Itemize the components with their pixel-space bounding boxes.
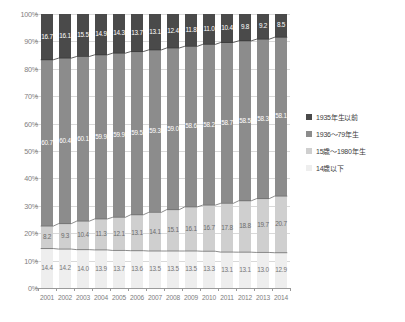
y-axis-tick-label: 70%: [4, 92, 38, 101]
x-axis-tick-label: 2009: [184, 294, 198, 301]
bar-segment-value-label: 58.6: [185, 123, 196, 129]
x-axis-tick-mark: [38, 288, 39, 291]
legend-swatch-icon: [306, 131, 312, 137]
bar-segment-value-label: 59.0: [167, 126, 178, 132]
bar-column: 13.516.158.611.8: [185, 14, 198, 288]
bar-segment: 59.9: [95, 55, 108, 219]
bar-segment-value-label: 59.9: [95, 134, 106, 140]
bar-segment: 13.5: [167, 251, 180, 288]
bar-segment-value-label: 13.5: [167, 266, 178, 272]
bar-segment: 10.4: [77, 221, 90, 249]
bar-column: 12.920.758.18.5: [275, 14, 288, 288]
bar-segment-value-label: 13.1: [239, 267, 250, 273]
bar-segment-value-label: 60.1: [77, 136, 88, 142]
bar-column: 13.118.858.59.8: [239, 14, 252, 288]
x-axis-tick-mark: [146, 288, 147, 291]
bar-segment-value-label: 58.2: [203, 122, 214, 128]
bar-segment: 13.1: [239, 252, 252, 288]
legend-item-label: 1935年生以前: [316, 112, 358, 122]
legend-item[interactable]: 15歳～1980年生: [306, 142, 405, 159]
bar-segment: 16.1: [59, 14, 72, 58]
legend-item-label: 14歳以下: [316, 163, 344, 173]
bar-segment-value-label: 9.3: [61, 233, 69, 239]
bar-segment: 14.9: [95, 14, 108, 55]
x-axis-tick-mark: [236, 288, 237, 291]
bar-segment: 14.0: [77, 250, 90, 288]
bar-column: 13.911.359.914.9: [95, 14, 108, 288]
bar-segment-value-label: 8.2: [43, 234, 51, 240]
bar-segment: 12.1: [113, 217, 126, 250]
bar-column: 14.010.460.115.5: [77, 14, 90, 288]
bar-segment-value-label: 14.0: [77, 266, 88, 272]
bar-segment: 58.3: [257, 39, 270, 198]
bar-column: 13.117.858.710.4: [221, 14, 234, 288]
y-axis: 0%10%20%30%40%50%60%70%80%90%100%: [0, 14, 38, 288]
bar-segment-value-label: 13.3: [203, 266, 214, 272]
bar-segment-value-label: 59.5: [131, 130, 142, 136]
legend-swatch-icon: [306, 148, 312, 154]
legend-item[interactable]: 14歳以下: [306, 159, 405, 176]
bar-segment-value-label: 10.4: [221, 25, 232, 31]
bar-segment: 14.3: [113, 14, 126, 53]
legend: 1935年生以前1936～79年生15歳～1980年生14歳以下: [306, 108, 405, 176]
y-axis-tick-label: 80%: [4, 64, 38, 73]
y-axis-tick-label: 10%: [4, 256, 38, 265]
bar-segment: 13.5: [185, 251, 198, 288]
bar-segment-value-label: 15.1: [167, 227, 178, 233]
x-axis-tick-mark: [182, 288, 183, 291]
legend-swatch-icon: [306, 165, 312, 171]
bar-segment-value-label: 60.7: [41, 140, 52, 146]
bar-segment-value-label: 59.3: [149, 128, 160, 134]
bar-segment: 59.0: [167, 48, 180, 210]
bar-segment: 17.8: [221, 203, 234, 252]
bar-segment: 58.2: [203, 44, 216, 205]
bar-segment: 10.4: [221, 14, 234, 42]
legend-swatch-icon: [306, 114, 312, 120]
bar-segment: 16.7: [203, 205, 216, 251]
bar-segment-value-label: 13.9: [95, 266, 106, 272]
x-axis-tick-label: 2007: [148, 294, 162, 301]
bar-column: 14.48.260.716.7: [41, 14, 54, 288]
x-axis-tick-mark: [290, 288, 291, 291]
x-axis-tick-label: 2002: [58, 294, 72, 301]
bar-segment-value-label: 14.1: [149, 229, 160, 235]
bar-segment-value-label: 60.4: [59, 138, 70, 144]
legend-item[interactable]: 1935年生以前: [306, 108, 405, 125]
bar-segment: 16.1: [185, 207, 198, 251]
y-axis-tick-label: 30%: [4, 201, 38, 210]
bar-segment: 58.1: [275, 37, 288, 196]
y-axis-tick-label: 20%: [4, 229, 38, 238]
bar-segment-value-label: 19.7: [257, 222, 268, 228]
x-axis-tick-label: 2006: [130, 294, 144, 301]
bar-segment-value-label: 15.5: [77, 32, 88, 38]
x-axis-tick-mark: [74, 288, 75, 291]
bar-segment: 18.8: [239, 201, 252, 252]
bar-segment-value-label: 12.4: [167, 28, 178, 34]
bar-segment: 15.1: [167, 210, 180, 251]
bar-segment-value-label: 11.8: [186, 27, 197, 33]
y-axis-tick-label: 90%: [4, 37, 38, 46]
bar-segment-value-label: 12.9: [275, 267, 286, 273]
x-axis-tick-label: 2012: [238, 294, 252, 301]
x-axis-tick-mark: [110, 288, 111, 291]
x-axis-tick-label: 2001: [40, 294, 54, 301]
bar-segment-value-label: 13.6: [131, 266, 142, 272]
bar-segment: 13.7: [131, 14, 144, 52]
bar-column: 13.019.758.39.2: [257, 14, 270, 288]
bar-column: 13.712.159.914.3: [113, 14, 126, 288]
bar-segment: 15.5: [77, 14, 90, 56]
bar-segment: 58.5: [239, 41, 252, 201]
bar-segment-value-label: 58.1: [275, 113, 286, 119]
bar-segment-value-label: 16.7: [203, 225, 214, 231]
legend-item[interactable]: 1936～79年生: [306, 125, 405, 142]
bar-segment-value-label: 17.8: [221, 225, 232, 231]
bar-segment: 60.7: [41, 60, 54, 226]
bar-segment: 59.9: [113, 53, 126, 217]
bar-segment: 20.7: [275, 196, 288, 253]
x-axis-tick-label: 2003: [76, 294, 90, 301]
x-axis-tick-label: 2008: [166, 294, 180, 301]
bar-segment-value-label: 13.1: [221, 267, 232, 273]
x-axis-tick-label: 2011: [220, 294, 233, 301]
bar-segment-value-label: 13.7: [131, 30, 142, 36]
bar-segment-value-label: 16.1: [59, 33, 70, 39]
